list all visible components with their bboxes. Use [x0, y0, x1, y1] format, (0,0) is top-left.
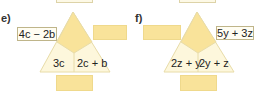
bottom-left-value-f: 2z + y: [171, 57, 201, 69]
answer-box-right-e[interactable]: [93, 25, 127, 40]
bottom-right-value-f: 2y + z: [199, 57, 229, 69]
answer-box-bottom-e[interactable]: [56, 75, 93, 91]
given-box-left-e: 4c − 2b: [17, 27, 57, 41]
bottom-right-value-e: 2c + b: [77, 57, 107, 69]
answer-box-left-f[interactable]: [143, 25, 181, 40]
puzzle-label-e: e): [1, 12, 11, 24]
bottom-left-value-e: 3c: [53, 57, 65, 69]
puzzle-label-f: f): [135, 12, 142, 24]
given-box-right-f: 5y + 3z: [216, 26, 254, 40]
answer-box-bottom-f[interactable]: [180, 75, 217, 91]
